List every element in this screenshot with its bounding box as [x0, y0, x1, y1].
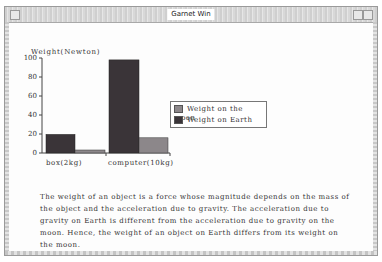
chart-legend: Weight on the moon Weight on Earth	[170, 101, 267, 128]
bar-computer-moon	[139, 138, 168, 153]
x-category-label: box(2kg)	[46, 159, 82, 167]
legend-item-earth: Weight on Earth	[174, 116, 252, 125]
bar-box-moon	[75, 150, 105, 153]
description-text: The weight of an object is a force whose…	[40, 191, 350, 251]
legend-swatch-earth	[174, 116, 183, 124]
x-category-label: computer(10kg)	[108, 159, 174, 167]
bar-computer-earth	[109, 60, 139, 153]
legend-item-moon: Weight on the moon	[174, 105, 266, 114]
legend-label: Weight on Earth	[187, 116, 252, 124]
bar-box-earth	[46, 134, 75, 153]
description-paragraph: The weight of an object is a force whose…	[40, 191, 350, 251]
legend-swatch-moon	[174, 105, 183, 113]
